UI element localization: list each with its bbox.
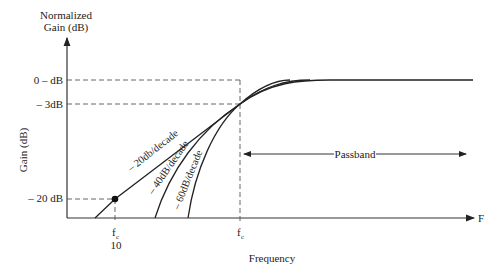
y-tick-0db: 0 – dB — [34, 74, 63, 86]
x-tick-fc-over-10: f c 10 — [111, 226, 123, 251]
svg-text:10: 10 — [111, 239, 123, 251]
y-axis-title: Normalized Gain (dB) — [40, 9, 92, 34]
x-tick-fc: f c — [237, 226, 244, 241]
y-tick-3db: – 3dB — [35, 98, 63, 110]
x-axis-end-label: F — [478, 212, 484, 224]
y-axis-label: Gain (dB) — [17, 128, 30, 173]
marker-point — [112, 196, 119, 203]
y-tick-20db: – 20 dB — [27, 192, 63, 204]
svg-text:Normalized: Normalized — [40, 9, 92, 21]
x-axis-label: Frequency — [249, 252, 296, 264]
svg-text:c: c — [241, 233, 244, 241]
curve-60db-decade — [188, 80, 290, 218]
passband-label: Passband — [335, 148, 376, 160]
svg-text:Gain (dB): Gain (dB) — [44, 21, 89, 34]
highpass-filter-response-chart: Normalized Gain (dB) F Gain (dB) 0 – dB … — [0, 0, 497, 276]
